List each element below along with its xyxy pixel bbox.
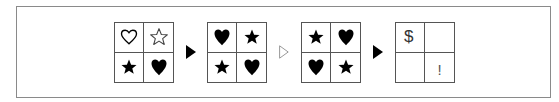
empty-cell	[425, 23, 454, 53]
arrow-hollow-icon	[279, 45, 289, 59]
star-filled-icon	[237, 23, 266, 53]
star-filled-icon	[302, 23, 331, 53]
empty-cell	[396, 53, 425, 83]
heart-filled-icon	[302, 53, 331, 83]
star-filled-icon	[208, 53, 237, 83]
symbol-grid-4: $ !	[395, 22, 455, 83]
star-filled-icon	[115, 53, 144, 83]
heart-filled-icon	[331, 23, 360, 53]
symbol-grid-2	[207, 22, 267, 83]
star-outline-icon	[144, 23, 173, 53]
symbol-grid-3	[301, 22, 361, 83]
symbol-grid-1	[114, 22, 174, 83]
heart-outline-icon	[115, 23, 144, 53]
arrow-filled-icon	[186, 45, 196, 59]
heart-filled-icon	[237, 53, 266, 83]
arrow-filled-icon	[373, 45, 383, 59]
heart-filled-icon	[208, 23, 237, 53]
exclamation-cell: !	[425, 53, 454, 83]
heart-filled-icon	[144, 53, 173, 83]
star-filled-icon	[331, 53, 360, 83]
dollar-sign-cell: $	[396, 23, 425, 53]
